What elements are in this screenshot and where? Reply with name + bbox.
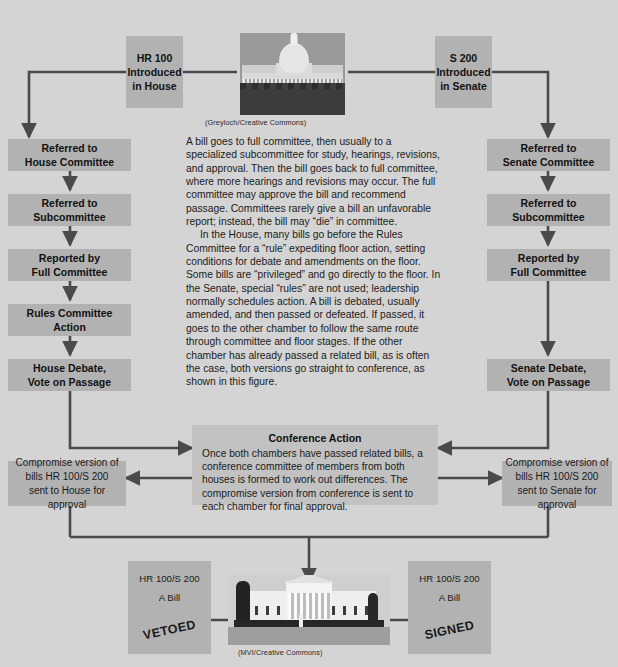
node-line-1: Compromise version of — [16, 456, 119, 470]
node-line-3: in House — [132, 79, 176, 93]
whitehouse-tree-left — [236, 581, 250, 625]
signed-bill-label: A Bill — [408, 592, 491, 603]
node-line-2: Full Committee — [32, 265, 108, 279]
node-line-2: Vote on Passage — [28, 375, 111, 389]
node-referred-to-senate-committee[interactable]: Referred to Senate Committee — [487, 139, 610, 171]
node-line-2: Subcommittee — [33, 210, 105, 224]
node-senate-compromise-version[interactable]: Compromise version of bills HR 100/S 200… — [502, 461, 612, 506]
connector-house-debate-to-conference — [70, 391, 192, 448]
node-line-2: Action — [53, 320, 86, 334]
node-rules-committee-action[interactable]: Rules Committee Action — [8, 304, 131, 336]
signed-stamp: SIGNED — [407, 615, 491, 646]
node-referred-to-senate-subcommittee[interactable]: Referred to Subcommittee — [487, 194, 610, 226]
node-line-2: bills HR 100/S 200 — [516, 470, 599, 484]
whitehouse-photo — [228, 575, 390, 645]
capitol-lantern — [290, 33, 297, 45]
node-s200-introduced-in-senate[interactable]: S 200 Introduced in Senate — [435, 36, 492, 108]
node-line-1: Referred to — [41, 196, 97, 210]
node-referred-to-house-committee[interactable]: Referred to House Committee — [8, 139, 131, 171]
node-senate-debate-vote-on-passage[interactable]: Senate Debate, Vote on Passage — [487, 359, 610, 391]
prose-paragraph-2: In the House, many bills go before the R… — [186, 228, 442, 388]
node-line-2: Senate Committee — [503, 155, 595, 169]
conference-action-body: Once both chambers have passed related b… — [202, 447, 428, 513]
node-referred-to-house-subcommittee[interactable]: Referred to Subcommittee — [8, 194, 131, 226]
capitol-dome — [279, 43, 309, 73]
node-line-2: bills HR 100/S 200 — [26, 470, 109, 484]
node-line-1: Referred to — [41, 141, 97, 155]
whitehouse-columns — [288, 593, 330, 619]
connector-s200-to-senate-committee — [492, 72, 548, 137]
node-line-1: Rules Committee — [27, 306, 113, 320]
capitol-statue — [293, 33, 295, 34]
node-line-1: Reported by — [39, 251, 100, 265]
whitehouse-fountain — [299, 614, 303, 628]
node-hr100-introduced-in-house[interactable]: HR 100 Introduced in House — [126, 36, 183, 108]
node-line-1: Senate Debate, — [511, 361, 586, 375]
capitol-photo-credit: (Greyloch/Creative Commons) — [205, 118, 306, 127]
node-line-1: House Debate, — [33, 361, 106, 375]
node-line-3: sent to House for approval — [11, 484, 123, 512]
conference-action-box[interactable]: Conference Action Once both chambers hav… — [192, 425, 438, 505]
whitehouse-lawn — [228, 627, 390, 645]
node-line-2: House Committee — [25, 155, 114, 169]
node-line-2: Full Committee — [511, 265, 587, 279]
capitol-ground — [240, 89, 345, 115]
node-line-2: Subcommittee — [512, 210, 584, 224]
node-house-compromise-version[interactable]: Compromise version of bills HR 100/S 200… — [8, 461, 126, 506]
whitehouse-photo-credit: (MVI/Creative Commons) — [238, 648, 323, 657]
node-line-1: S 200 — [450, 51, 477, 65]
signed-bill-number: HR 100/S 200 — [408, 573, 491, 584]
vetoed-bill-label: A Bill — [128, 592, 211, 603]
node-line-1: Reported by — [518, 251, 579, 265]
node-line-3: sent to Senate for approval — [505, 484, 609, 512]
conference-action-title: Conference Action — [202, 431, 428, 446]
node-line-1: HR 100 — [137, 51, 173, 65]
connector-hr100-to-house-committee — [29, 72, 126, 137]
node-line-1: Compromise version of — [506, 456, 609, 470]
node-house-debate-vote-on-passage[interactable]: House Debate, Vote on Passage — [8, 359, 131, 391]
connector-senate-debate-to-conference — [438, 391, 548, 448]
outcome-vetoed-bill[interactable]: HR 100/S 200 A Bill VETOED — [128, 561, 211, 654]
capitol-photo — [240, 33, 345, 115]
node-reported-by-full-committee-house[interactable]: Reported by Full Committee — [8, 249, 131, 281]
node-line-1: Referred to — [520, 141, 576, 155]
bill-process-diagram: HR 100 Introduced in House (Greyloch/Cre… — [0, 0, 618, 667]
node-line-1: Referred to — [520, 196, 576, 210]
node-line-2: Introduced — [127, 65, 181, 79]
vetoed-stamp: VETOED — [127, 615, 211, 646]
node-line-2: Introduced — [436, 65, 490, 79]
node-line-3: in Senate — [440, 79, 487, 93]
node-line-2: Vote on Passage — [507, 375, 590, 389]
prose-paragraph-1: A bill goes to full committee, then usua… — [186, 135, 442, 228]
outcome-signed-bill[interactable]: HR 100/S 200 A Bill SIGNED — [408, 561, 491, 654]
node-reported-by-full-committee-senate[interactable]: Reported by Full Committee — [487, 249, 610, 281]
explanatory-text: A bill goes to full committee, then usua… — [186, 135, 442, 389]
vetoed-bill-number: HR 100/S 200 — [128, 573, 211, 584]
